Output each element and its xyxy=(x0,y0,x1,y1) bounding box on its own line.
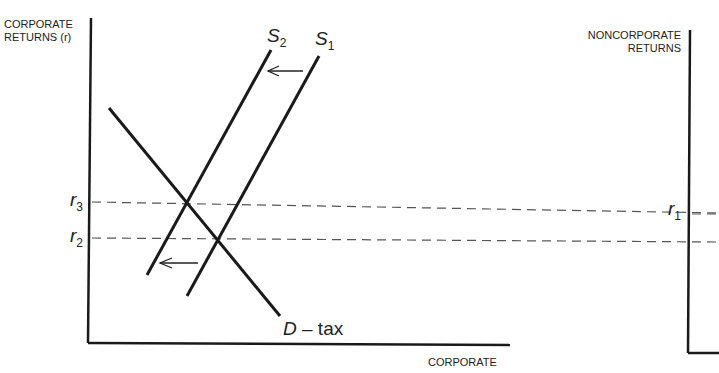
left-x-axis xyxy=(88,343,510,345)
supply-demand-diagram xyxy=(0,0,719,373)
supply-curve-s2 xyxy=(147,50,271,275)
r1-label: r1 xyxy=(668,198,681,223)
right-y-axis xyxy=(688,30,690,353)
left-y-axis xyxy=(88,18,91,343)
left-x-axis-label: CORPORATE xyxy=(428,356,497,369)
r3-label: r3 xyxy=(70,189,83,214)
r2-label: r2 xyxy=(70,225,83,250)
s2-label: S2 xyxy=(267,25,286,50)
supply-curve-s1 xyxy=(187,56,319,296)
s1-label: S1 xyxy=(315,28,334,53)
left-y-axis-label: CORPORATE RETURNS (r) xyxy=(4,18,73,44)
right-y-axis-label: NONCORPORATE RETURNS xyxy=(574,29,681,55)
r2-dashed-line xyxy=(92,238,719,242)
demand-label: D – tax xyxy=(283,318,343,340)
